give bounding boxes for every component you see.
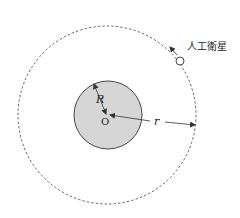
orbit-diagram: 人工衛星 R r O: [0, 0, 240, 218]
center-label: O: [101, 116, 109, 127]
diagram-canvas: 人工衛星 R r O: [0, 0, 240, 218]
earth-radius-label: R: [95, 93, 104, 106]
satellite: [176, 57, 184, 65]
earth: [74, 81, 142, 149]
orbit-radius-label: r: [154, 115, 160, 128]
satellite-label: 人工衛星: [187, 40, 227, 52]
satellite-direction-arrow: [170, 47, 177, 55]
orbit-radius-arrow-right: [165, 122, 195, 125]
